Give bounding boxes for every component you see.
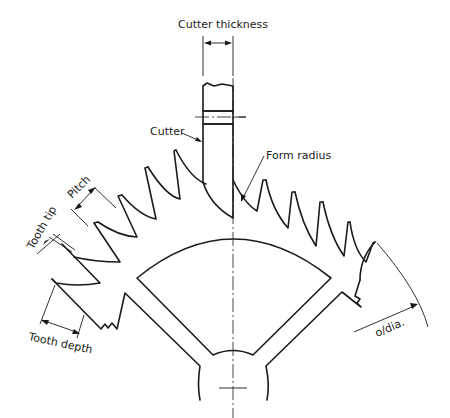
pitch-dimension: Pitch xyxy=(65,173,116,226)
cutter-thickness-label: Cutter thickness xyxy=(178,18,268,31)
cutter-wheel-body xyxy=(52,239,361,400)
cutter-section xyxy=(195,83,246,218)
form-radius-callout: Form radius xyxy=(241,149,331,202)
tooth-tip-dimension: Tooth tip xyxy=(24,204,75,254)
cutter-callout: Cutter xyxy=(150,125,202,142)
form-radius-label: Form radius xyxy=(266,149,331,162)
outer-diameter-label: o/dia. xyxy=(373,316,406,340)
tooth-depth-dimension: Tooth depth xyxy=(26,285,93,356)
cutter-label: Cutter xyxy=(150,125,185,138)
tooth-depth-label: Tooth depth xyxy=(26,330,93,356)
teeth-right xyxy=(233,180,375,280)
cutter-thickness-dimension: Cutter thickness xyxy=(178,18,268,76)
pitch-label: Pitch xyxy=(65,173,93,201)
cutter-diagram: Cutter thickness Cutter Form radius xyxy=(0,0,450,418)
teeth-left xyxy=(52,150,206,285)
tooth-tip-label: Tooth tip xyxy=(24,204,59,252)
